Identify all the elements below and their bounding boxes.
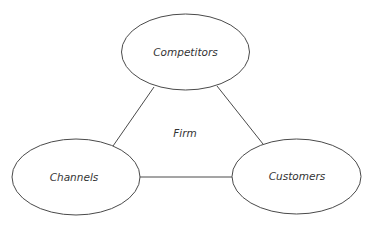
channels-label: Channels <box>50 171 99 183</box>
node-competitors: Competitors <box>122 14 250 90</box>
cropped-caption-fragment <box>0 221 368 228</box>
node-customers: Customers <box>232 139 361 214</box>
competitors-label: Competitors <box>153 46 218 58</box>
firm-relationship-diagram: Competitors Channels Customers Firm <box>0 0 368 228</box>
edge-competitors-channels <box>113 87 154 146</box>
edge-competitors-customers <box>217 86 263 144</box>
firm-label: Firm <box>173 127 197 139</box>
customers-label: Customers <box>269 170 326 182</box>
node-channels: Channels <box>12 139 140 215</box>
